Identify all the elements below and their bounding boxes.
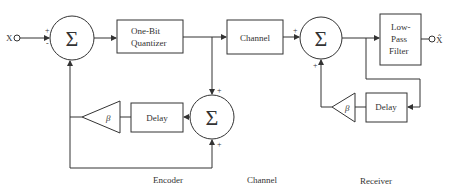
integrator-summer: Σ + + <box>190 86 234 149</box>
receiver-delay-block: Delay <box>366 93 407 122</box>
svg-text:Low-: Low- <box>391 22 411 32</box>
svg-text:One-Bit: One-Bit <box>131 26 160 36</box>
input-label: X <box>6 33 13 43</box>
output-terminal: X̂ <box>429 34 443 45</box>
input-terminal: X <box>6 33 20 43</box>
svg-text:Σ: Σ <box>66 26 79 51</box>
svg-text:Filter: Filter <box>389 46 409 56</box>
encoder-delay-block: Delay <box>131 103 183 132</box>
svg-text:Σ: Σ <box>315 26 328 51</box>
receiver-feedback-wire <box>321 60 332 107</box>
bottom-loop-wire <box>70 140 212 168</box>
section-label-receiver: Receiver <box>360 176 392 186</box>
one-bit-quantizer-block: One-Bit Quantizer <box>117 20 183 53</box>
channel-block: Channel <box>227 20 283 54</box>
svg-text:+: + <box>313 61 318 70</box>
svg-text:β: β <box>105 113 111 123</box>
encoder-beta-gain: β <box>82 101 120 133</box>
svg-text:Channel: Channel <box>240 33 270 43</box>
svg-text:Quantizer: Quantizer <box>131 38 166 48</box>
section-label-encoder: Encoder <box>153 175 183 185</box>
section-label-channel: Channel <box>247 175 277 185</box>
svg-text:-: - <box>46 39 49 48</box>
svg-text:+: + <box>217 140 222 149</box>
svg-text:Delay: Delay <box>375 102 397 112</box>
svg-text:Σ: Σ <box>206 105 219 130</box>
svg-text:Pass: Pass <box>391 34 408 44</box>
encoder-summer: Σ + - <box>45 16 94 60</box>
svg-text:+: + <box>217 86 222 95</box>
svg-text:β: β <box>344 103 350 113</box>
svg-text:+: + <box>293 26 298 35</box>
svg-text:Delay: Delay <box>146 113 168 123</box>
delta-modulation-diagram: X Σ + - One-Bit Quantizer Channel Σ + + … <box>0 0 453 191</box>
output-label: X̂ <box>436 34 443 45</box>
receiver-summer: Σ + + <box>293 17 342 70</box>
low-pass-filter-block: Low- Pass Filter <box>380 14 421 65</box>
svg-text:+: + <box>45 26 50 35</box>
receiver-beta-gain: β <box>332 93 355 122</box>
